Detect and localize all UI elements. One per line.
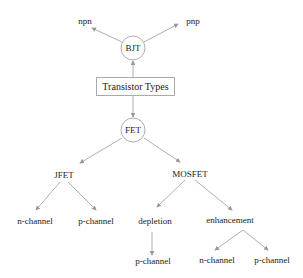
pnp-label: pnp xyxy=(186,17,200,26)
bjt-label: BJT xyxy=(125,44,140,53)
fet-label: FET xyxy=(125,126,141,135)
enh-pchannel-label: p-channel xyxy=(254,256,289,265)
root-node: Transistor Types xyxy=(96,77,175,96)
depletion-label: depletion xyxy=(138,217,172,226)
enhancement-label: enhancement xyxy=(206,216,253,225)
jfet-nchannel-label: n-channel xyxy=(17,217,52,226)
depletion-pchannel-label: p-channel xyxy=(135,257,170,266)
mosfet-label: MOSFET xyxy=(172,170,208,179)
jfet-pchannel-label: p-channel xyxy=(78,217,113,226)
jfet-label: JFET xyxy=(54,171,74,180)
npn-label: npn xyxy=(78,17,92,26)
edges xyxy=(0,0,303,278)
enh-nchannel-label: n-channel xyxy=(199,256,234,265)
